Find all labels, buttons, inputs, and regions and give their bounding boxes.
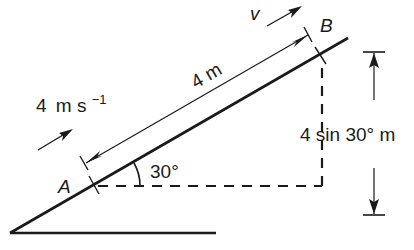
tick-a (89, 176, 99, 194)
final-velocity-arrowhead (288, 6, 302, 18)
velocity-v-label: v (250, 3, 261, 24)
angle-arc (134, 163, 140, 186)
length-arrowhead-a (86, 151, 102, 163)
length-end-tick-b (304, 27, 312, 42)
length-arrowhead-b (292, 35, 308, 47)
point-b-label: B (320, 15, 333, 36)
incline-surface (10, 38, 348, 233)
inclined-plane-diagram: 4 m s −1 4 m A B v 30° 4 sin 30° m (0, 0, 414, 250)
point-a-label: A (57, 176, 71, 197)
height-label: 4 sin 30° m (300, 124, 395, 145)
diagram-svg: 4 m s −1 4 m A B v 30° 4 sin 30° m (0, 0, 414, 250)
initial-speed-label: 4 m s −1 (36, 92, 107, 116)
initial-velocity-arrowhead (59, 129, 73, 141)
angle-label: 30° (150, 161, 179, 182)
length-dimension-line (86, 35, 308, 163)
